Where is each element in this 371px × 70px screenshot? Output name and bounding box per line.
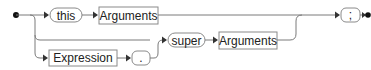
terminal-this: this [50,8,82,23]
connector-branch [150,40,166,58]
nonterminal-arguments-middle: Arguments [219,32,277,49]
arrow-right-icon [162,37,167,44]
terminal-dot-label: . [139,51,142,65]
connector-branch [35,35,150,40]
terminal-super-label: super [171,34,201,48]
nonterminal-arguments-top: Arguments [99,7,158,24]
terminal-this-label: this [57,9,76,23]
nonterminal-arguments-middle-label: Arguments [219,34,277,48]
terminal-super: super [168,33,205,48]
arrow-right-icon [213,37,218,44]
railroad-diagram: this Arguments ; Expression . super [0,0,371,70]
nonterminal-arguments-top-label: Arguments [99,9,157,23]
nonterminal-expression: Expression [49,50,117,66]
arrow-right-icon [126,55,131,62]
end-marker-icon [365,12,371,18]
arrow-right-icon [44,12,49,19]
nonterminal-expression-label: Expression [53,51,112,65]
connector-branch [30,15,46,58]
connector-branch [277,15,302,40]
terminal-dot: . [132,51,150,66]
terminal-semicolon: ; [341,8,360,22]
terminal-semicolon-label: ; [349,8,352,22]
arrow-right-icon [43,55,48,62]
arrow-right-icon [335,12,340,19]
arrow-right-icon [93,12,98,19]
